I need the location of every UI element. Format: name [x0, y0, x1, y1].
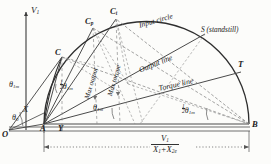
label-standstill: S (standstill) [201, 26, 239, 33]
point-label-O: O [2, 130, 8, 139]
construction-S-down [140, 34, 205, 124]
angle-label-theta-1m: θ1m [9, 81, 19, 90]
angle-label-theta-0: θ0 [12, 114, 18, 123]
point-label-Y: Y [58, 124, 63, 133]
arrowhead-Cp [93, 96, 97, 100]
axis-label-V1: V1 [31, 6, 39, 16]
diagram-canvas: V1 O A Y B C Cp Ct T S (standstill) Inpu… [0, 0, 271, 164]
angle-label-theta-1m-mid: θ1m [93, 104, 103, 113]
angle-label-half-theta-1m-a: 1 2 θ1m [60, 80, 73, 92]
angle-arc-halftheta-b [206, 108, 208, 120]
input-circle-arc [44, 22, 249, 125]
dimension-arrow-right [244, 145, 249, 149]
fraction-denominator: X1+X2e [151, 145, 179, 155]
point-label-C: C [55, 48, 61, 57]
dimension-arrow-left [44, 145, 49, 149]
point-label-T: T [238, 60, 243, 69]
point-label-Ct: Ct [110, 7, 117, 16]
chord-A-Cp [44, 28, 93, 124]
angle-arc-theta-mid [112, 108, 114, 119]
dimension-fraction: V1 X1+X2e [151, 134, 179, 154]
point-label-B: B [252, 120, 258, 129]
angle-label-half-theta-1m-b: 1 2 θ1m [182, 104, 195, 116]
arrowhead-Ct [116, 92, 120, 96]
point-label-A: A [40, 124, 46, 133]
fraction: V1 X1+X2e [151, 134, 179, 154]
axis-arrow [24, 12, 28, 16]
point-label-Cp: Cp [85, 17, 93, 26]
angle-label-X: X [23, 105, 28, 114]
torque-line [44, 72, 241, 124]
angle-arc-halftheta-a [55, 84, 57, 93]
